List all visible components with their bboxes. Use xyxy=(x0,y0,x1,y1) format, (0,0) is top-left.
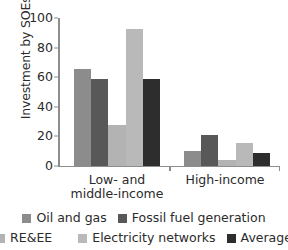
y-axis-tick-label: 60 xyxy=(37,71,53,84)
y-axis-tick-label: 100 xyxy=(29,12,53,25)
legend-item[interactable]: Fossil fuel generation xyxy=(118,212,266,225)
y-axis-tick-mark xyxy=(54,47,58,48)
bar xyxy=(201,135,218,166)
x-axis-end-tick xyxy=(279,167,281,171)
bar xyxy=(126,29,143,165)
y-axis-tick-label: 0 xyxy=(45,159,53,172)
bar xyxy=(91,79,108,166)
legend-label: Oil and gas xyxy=(36,212,106,225)
legend-label: RE&EE xyxy=(10,232,52,245)
y-axis-line xyxy=(58,18,60,167)
y-axis-tick-mark xyxy=(54,18,58,19)
y-axis-tick-mark xyxy=(54,106,58,107)
legend-row: RE&EEElectricity networksAverage xyxy=(0,228,288,248)
legend-label: Fossil fuel generation xyxy=(132,212,266,225)
legend-swatch-icon xyxy=(78,234,87,243)
legend-swatch-icon xyxy=(22,214,31,223)
legend-label: Electricity networks xyxy=(92,232,215,245)
legend-label: Average xyxy=(241,232,288,245)
y-axis-tick-mark xyxy=(54,136,58,137)
bar xyxy=(236,143,253,166)
bar xyxy=(253,153,270,166)
bar-group-high-income xyxy=(184,19,270,166)
x-axis-label-low-and-middle-income: Low- and middle-income xyxy=(61,173,173,201)
legend-row: Oil and gasFossil fuel generation xyxy=(0,208,288,228)
bar-group-low-and-middle-income xyxy=(74,19,160,166)
bar xyxy=(184,151,201,166)
bar xyxy=(143,79,160,166)
legend-swatch-icon xyxy=(118,214,127,223)
legend-item[interactable]: Average xyxy=(227,232,288,245)
legend-item[interactable]: Oil and gas xyxy=(22,212,106,225)
chart-legend: Oil and gasFossil fuel generationRE&EEEl… xyxy=(0,208,288,248)
bar xyxy=(108,125,125,166)
legend-swatch-icon xyxy=(0,234,5,243)
y-axis-tick-mark xyxy=(54,77,58,78)
bar xyxy=(218,160,235,165)
legend-item[interactable]: Electricity networks xyxy=(78,232,215,245)
legend-item[interactable]: RE&EE xyxy=(0,232,52,245)
plot-area: 020406080100 Low- and middle-income High… xyxy=(58,18,280,167)
bar xyxy=(74,69,91,166)
legend-swatch-icon xyxy=(227,234,236,243)
x-axis-group-separator-tick xyxy=(169,167,171,171)
y-axis-tick-mark xyxy=(54,165,58,166)
x-axis-label-high-income: High-income xyxy=(170,173,280,187)
y-axis-tick-label: 20 xyxy=(37,130,53,143)
y-axis-tick-label: 40 xyxy=(37,100,53,113)
y-axis-tick-label: 80 xyxy=(37,41,53,54)
bar-chart-figure: Investment by SOEs (%) 020406080100 Low-… xyxy=(0,0,288,250)
